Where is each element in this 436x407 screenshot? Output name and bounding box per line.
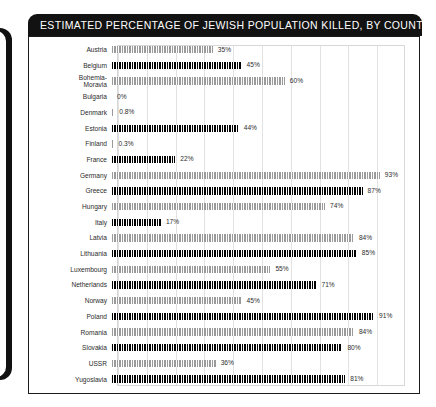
bar-track: 81% [112, 372, 414, 386]
country-label: Romania [34, 329, 112, 336]
bar-value-label: 84% [359, 234, 372, 241]
country-label: Netherlands [34, 281, 112, 288]
bar-value-label: 84% [359, 328, 372, 335]
bar-value-label: 87% [368, 187, 381, 194]
bar-row: Bulgaria0% [34, 90, 414, 104]
bar [112, 156, 175, 163]
bar-value-label: 74% [330, 202, 343, 209]
bar-row: Austria35% [34, 43, 414, 57]
bar [112, 281, 316, 288]
bar-row: Greece87% [34, 184, 414, 198]
bar-value-label: 71% [321, 281, 334, 288]
chart-title-bar: ESTIMATED PERCENTAGE OF JEWISH POPULATIO… [28, 14, 422, 36]
bar-track: 80% [112, 341, 414, 355]
bar-value-label: 0.3% [119, 140, 134, 147]
bar-row: Norway45% [34, 294, 414, 308]
bar-track: 45% [112, 59, 414, 73]
bar [112, 266, 270, 273]
bar [112, 140, 114, 147]
bar [112, 250, 357, 257]
country-label: Denmark [34, 109, 112, 116]
country-label: Latvia [34, 234, 112, 241]
country-label: Bohemia- Moravia [34, 74, 112, 88]
bar-value-label: 93% [385, 171, 398, 178]
bar-row: Denmark0.8% [34, 106, 414, 120]
bar-row: Poland91% [34, 310, 414, 324]
bar-row: Hungary74% [34, 200, 414, 214]
bar-track: 74% [112, 200, 414, 214]
bar-track: 0.8% [112, 106, 414, 120]
country-label: Finland [34, 140, 112, 147]
bar-value-label: 55% [275, 265, 288, 272]
bar-row-list: Austria35%Belgium45%Bohemia- Moravia60%B… [34, 43, 414, 388]
bar-row: Yugoslavia81% [34, 372, 414, 386]
bar-track: 93% [112, 168, 414, 182]
bar [112, 360, 216, 367]
bar-row: Bohemia- Moravia60% [34, 74, 414, 88]
bar-value-label: 0.8% [119, 108, 134, 115]
bar-row: Finland0.3% [34, 137, 414, 151]
bar-value-label: 17% [166, 218, 179, 225]
bar-track: 36% [112, 357, 414, 371]
country-label: Italy [34, 219, 112, 226]
bar-track: 91% [112, 310, 414, 324]
bar [112, 375, 345, 382]
bar-value-label: 45% [247, 61, 260, 68]
country-label: Germany [34, 172, 112, 179]
bar [112, 234, 354, 241]
country-label: Yugoslavia [34, 376, 112, 383]
bar-track: 60% [112, 74, 414, 88]
bar-track: 87% [112, 184, 414, 198]
bar-value-label: 0% [117, 93, 127, 100]
plot-area: Austria35%Belgium45%Bohemia- Moravia60%B… [34, 43, 414, 388]
country-label: Estonia [34, 125, 112, 132]
bar-row: Latvia84% [34, 231, 414, 245]
country-label: Hungary [34, 203, 112, 210]
bar-row: Italy17% [34, 216, 414, 230]
bar-row: France22% [34, 153, 414, 167]
bar-row: Romania84% [34, 325, 414, 339]
bar [112, 125, 239, 132]
bar-track: 44% [112, 121, 414, 135]
bar [112, 297, 242, 304]
bar-row: USSR36% [34, 357, 414, 371]
bar-track: 55% [112, 263, 414, 277]
bar-value-label: 60% [290, 77, 303, 84]
country-label: USSR [34, 360, 112, 367]
country-label: Greece [34, 187, 112, 194]
bar-value-label: 22% [180, 155, 193, 162]
country-label: Belgium [34, 62, 112, 69]
bar-row: Estonia44% [34, 121, 414, 135]
bar-row: Netherlands71% [34, 278, 414, 292]
chart-card: ESTIMATED PERCENTAGE OF JEWISH POPULATIO… [28, 10, 422, 397]
bar-value-label: 85% [362, 249, 375, 256]
bar [112, 344, 342, 351]
bar [112, 172, 380, 179]
bar-value-label: 35% [218, 46, 231, 53]
bar [112, 328, 354, 335]
country-label: Lithuania [34, 250, 112, 257]
bar [112, 313, 374, 320]
bar-track: 45% [112, 294, 414, 308]
bar-track: 35% [112, 43, 414, 57]
bar-value-label: 36% [221, 359, 234, 366]
country-label: France [34, 156, 112, 163]
bar-row: Slovakia80% [34, 341, 414, 355]
country-label: Luxembourg [34, 266, 112, 273]
bar [112, 62, 242, 69]
country-label: Norway [34, 297, 112, 304]
bar-value-label: 80% [347, 344, 360, 351]
country-label: Slovakia [34, 344, 112, 351]
bar [112, 203, 325, 210]
bar [112, 46, 213, 53]
bar-row: Belgium45% [34, 59, 414, 73]
page-edge-decoration-inner [0, 31, 6, 377]
bar-row: Lithuania85% [34, 247, 414, 261]
country-label: Poland [34, 313, 112, 320]
bar-value-label: 44% [244, 124, 257, 131]
bar-value-label: 81% [350, 375, 363, 382]
country-label: Bulgaria [34, 93, 112, 100]
bar-track: 71% [112, 278, 414, 292]
bar [112, 187, 363, 194]
bar-track: 0.3% [112, 137, 414, 151]
